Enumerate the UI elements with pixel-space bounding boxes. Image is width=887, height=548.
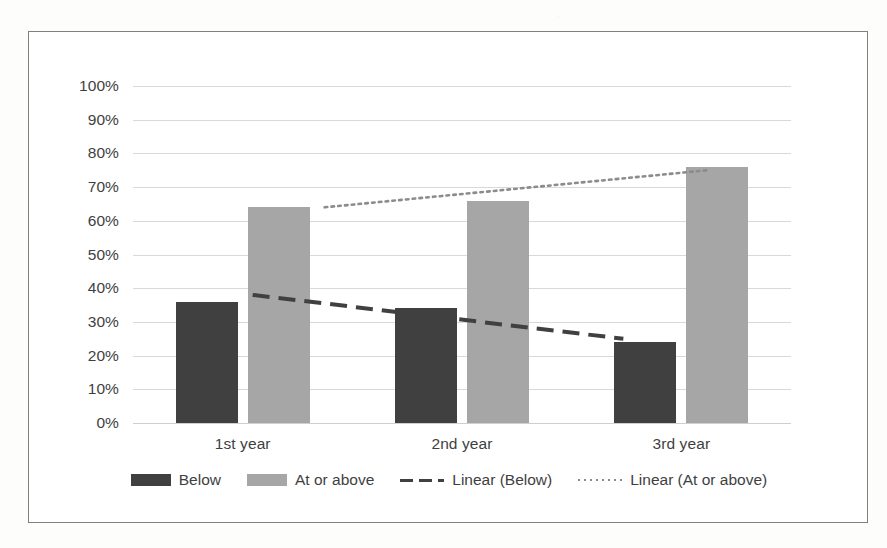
legend-swatch-below-icon — [131, 474, 171, 486]
y-axis-tick-label: 30% — [53, 314, 119, 330]
legend-line-dashed-icon — [400, 474, 444, 486]
legend-line-dotted-icon — [578, 474, 622, 486]
bar-at-or-above-2nd-year[interactable] — [467, 201, 529, 423]
y-axis-tick-label: 80% — [53, 145, 119, 161]
bar-at-or-above-3rd-year[interactable] — [686, 167, 748, 423]
legend-label: Below — [179, 472, 221, 488]
legend-swatch-at-or-above-icon — [247, 474, 287, 486]
y-axis-tick-label: 0% — [53, 415, 119, 431]
chart-frame: 100%90%80%70%60%50%40%30%20%10%0% 1st ye… — [28, 31, 868, 523]
gridline-80% — [133, 153, 791, 154]
legend-item-linear-at-or-above[interactable]: Linear (At or above) — [578, 472, 767, 488]
gridline-0% — [133, 423, 791, 424]
y-axis-tick-label: 90% — [53, 112, 119, 128]
legend-label: Linear (At or above) — [630, 472, 767, 488]
bar-below-3rd-year[interactable] — [614, 342, 676, 423]
y-axis-tick-label: 40% — [53, 280, 119, 296]
plot-area — [133, 86, 791, 423]
y-axis-tick-label: 100% — [53, 78, 119, 94]
chart-legend: BelowAt or aboveLinear (Below)Linear (At… — [29, 472, 869, 488]
legend-item-at-or-above[interactable]: At or above — [247, 472, 374, 488]
legend-item-linear-below[interactable]: Linear (Below) — [400, 472, 552, 488]
legend-label: At or above — [295, 472, 374, 488]
y-axis-tick-label: 20% — [53, 348, 119, 364]
y-axis-tick-label: 50% — [53, 247, 119, 263]
bar-below-1st-year[interactable] — [176, 302, 238, 423]
gridline-90% — [133, 120, 791, 121]
bar-at-or-above-1st-year[interactable] — [248, 207, 310, 423]
x-axis-tick-label: 1st year — [133, 436, 352, 452]
legend-item-below[interactable]: Below — [131, 472, 221, 488]
y-axis-tick-label: 60% — [53, 213, 119, 229]
gridline-100% — [133, 86, 791, 87]
x-axis-tick-label: 2nd year — [352, 436, 571, 452]
y-axis-tick-label: 10% — [53, 381, 119, 397]
x-axis-tick-label: 3rd year — [572, 436, 791, 452]
bar-below-2nd-year[interactable] — [395, 308, 457, 423]
legend-label: Linear (Below) — [452, 472, 552, 488]
y-axis-tick-label: 70% — [53, 179, 119, 195]
